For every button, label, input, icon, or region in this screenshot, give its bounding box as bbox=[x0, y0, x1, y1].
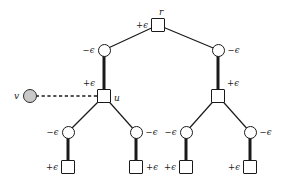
tree-node-c6 bbox=[244, 126, 257, 139]
node-name-v: v bbox=[14, 92, 19, 101]
eps-label-c6: −ϵ bbox=[260, 128, 272, 137]
eps-label-u: +ϵ bbox=[83, 79, 95, 88]
tree-edge-r-c1 bbox=[104, 25, 158, 50]
tree-node-q4 bbox=[243, 160, 257, 174]
eps-label-c3: −ϵ bbox=[47, 128, 59, 137]
tree-node-u bbox=[97, 89, 111, 103]
tree-node-c1 bbox=[98, 44, 111, 57]
eps-label-c5: −ϵ bbox=[165, 128, 177, 137]
eps-label-c2: −ϵ bbox=[228, 46, 240, 55]
eps-label-r: +ϵ bbox=[136, 21, 148, 30]
tree-node-q2 bbox=[129, 160, 143, 174]
eps-label-q3: +ϵ bbox=[164, 163, 176, 172]
tree-node-q1 bbox=[61, 160, 75, 174]
tree-node-q3 bbox=[179, 160, 193, 174]
tree-node-c4 bbox=[130, 126, 143, 139]
tree-node-c5 bbox=[180, 126, 193, 139]
tree-node-v bbox=[23, 89, 37, 103]
tree-edge-r-c2 bbox=[158, 25, 218, 50]
tree-node-c3 bbox=[62, 126, 75, 139]
eps-label-q4: +ϵ bbox=[228, 163, 240, 172]
eps-label-s2: +ϵ bbox=[227, 79, 239, 88]
tree-node-c2 bbox=[212, 44, 225, 57]
node-name-r: r bbox=[159, 8, 163, 17]
eps-label-q1: +ϵ bbox=[46, 163, 58, 172]
eps-label-q2: +ϵ bbox=[146, 163, 158, 172]
tree-node-r bbox=[151, 18, 165, 32]
tree-diagram-figure: +ϵr−ϵ−ϵ+ϵu+ϵv−ϵ−ϵ−ϵ−ϵ+ϵ+ϵ+ϵ+ϵ bbox=[0, 0, 283, 183]
node-name-u: u bbox=[114, 94, 120, 103]
tree-node-s2 bbox=[211, 89, 225, 103]
eps-label-c1: −ϵ bbox=[83, 46, 95, 55]
eps-label-c4: −ϵ bbox=[146, 128, 158, 137]
